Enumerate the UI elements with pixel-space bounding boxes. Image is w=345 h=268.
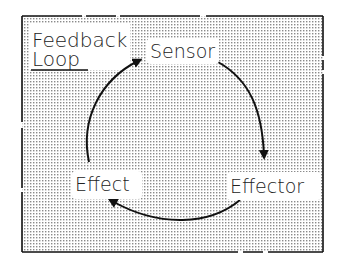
- node-effect-label: Effect: [75, 173, 130, 195]
- node-effect: Effect: [72, 171, 142, 199]
- title-line-2: Loop: [32, 47, 80, 71]
- node-effector-label: Effector: [230, 175, 304, 197]
- node-sensor: Sensor: [147, 38, 219, 64]
- feedback-loop-diagram: Feedback Loop Sensor Effector Effect: [0, 0, 345, 268]
- node-effector: Effector: [227, 172, 321, 200]
- title: Feedback Loop: [30, 24, 130, 71]
- node-sensor-label: Sensor: [150, 40, 215, 62]
